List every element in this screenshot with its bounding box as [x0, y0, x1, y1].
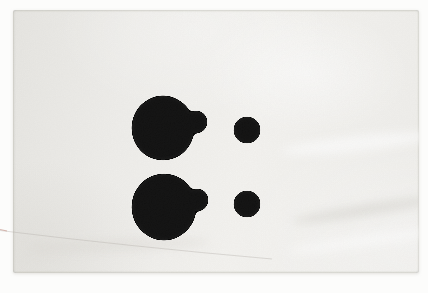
- paper-grain-texture: [13, 10, 419, 273]
- ink-blot-layer: [0, 0, 428, 293]
- photograph: [0, 0, 428, 293]
